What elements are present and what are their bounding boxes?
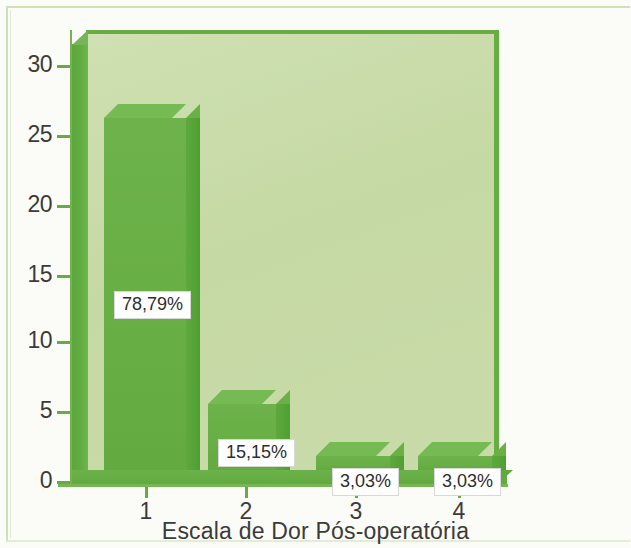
y-axis-tick: 0 bbox=[0, 481, 70, 484]
y-axis-tick-label: 15 bbox=[27, 261, 52, 288]
y-axis-tick-label: 5 bbox=[40, 397, 52, 424]
y-axis-tick-mark bbox=[57, 411, 70, 414]
y-axis-tick: 30 bbox=[0, 65, 70, 68]
y-axis-tick: 20 bbox=[0, 205, 70, 208]
y-axis-tick: 10 bbox=[0, 341, 70, 344]
y-axis-tick: 25 bbox=[0, 135, 70, 138]
y-axis-tick-label: 0 bbox=[40, 467, 52, 494]
y-axis-tick-mark bbox=[57, 135, 70, 138]
y-axis-tick: 15 bbox=[0, 275, 70, 278]
y-axis-tick-mark bbox=[57, 205, 70, 208]
bar-data-label: 78,79% bbox=[114, 291, 191, 319]
y-axis-tick-mark bbox=[57, 275, 70, 278]
bar-data-label: 15,15% bbox=[218, 439, 295, 467]
y-axis-tick-label: 20 bbox=[27, 191, 52, 218]
x-axis-tick-mark bbox=[145, 487, 148, 498]
y-axis-tick-mark bbox=[57, 65, 70, 68]
y-axis-line bbox=[70, 30, 72, 486]
bar-top-face bbox=[104, 104, 186, 118]
chart-figure: 302520151050 1234 78,79%15,15%3,03%3,03%… bbox=[0, 0, 631, 548]
bar-data-label: 3,03% bbox=[434, 468, 501, 496]
y-axis-tick-label: 25 bbox=[27, 121, 52, 148]
x-axis-title: Escala de Dor Pós-operatória bbox=[0, 518, 631, 545]
y-axis-tick-mark bbox=[57, 341, 70, 344]
plot-left-wall bbox=[72, 44, 88, 485]
y-axis-tick-mark bbox=[57, 481, 70, 484]
x-axis-tick-mark bbox=[245, 487, 248, 498]
y-axis-tick-label: 10 bbox=[27, 327, 52, 354]
y-axis-tick-label: 30 bbox=[27, 51, 52, 78]
bar-data-label: 3,03% bbox=[332, 468, 399, 496]
y-axis-tick: 5 bbox=[0, 411, 70, 414]
